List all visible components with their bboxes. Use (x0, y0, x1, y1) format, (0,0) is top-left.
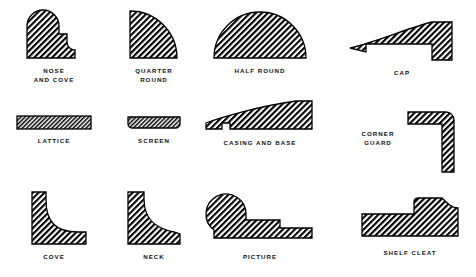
figure-nose-and-cove: NOSE AND COVE (6, 6, 102, 84)
cove-profile-drawing (18, 188, 90, 248)
figure-picture: PICTURE (204, 190, 316, 262)
quarter-round-profile-drawing (123, 6, 185, 62)
neck-label: NECK (143, 253, 165, 262)
nose-and-cove-label: NOSE AND COVE (34, 67, 75, 84)
half-round-profile-drawing (208, 6, 312, 62)
figure-half-round: HALF ROUND (204, 6, 316, 76)
picture-profile-drawing (202, 190, 318, 248)
casing-and-base-profile-drawing (200, 96, 320, 134)
figure-corner-guard: CORNER GUARD (350, 108, 470, 176)
half-round-label: HALF ROUND (235, 67, 286, 76)
figure-quarter-round: QUARTER ROUND (110, 6, 198, 84)
figure-screen: SCREEN (110, 112, 198, 146)
figure-cap: CAP (340, 18, 464, 78)
shelf-cleat-profile-drawing (356, 194, 464, 244)
shelf-cleat-label: SHELF CLEAT (383, 249, 436, 258)
corner-guard-profile-drawing (406, 108, 466, 176)
figure-cove: COVE (6, 188, 102, 262)
picture-label: PICTURE (243, 253, 277, 262)
neck-profile-drawing (118, 188, 190, 248)
lattice-label: LATTICE (38, 137, 71, 146)
figure-neck: NECK (110, 188, 198, 262)
cove-label: COVE (43, 253, 65, 262)
screen-profile-drawing (123, 112, 185, 132)
nose-and-cove-profile-drawing (19, 6, 89, 62)
corner-guard-label: CORNER GUARD (350, 130, 406, 147)
figure-lattice: LATTICE (6, 112, 102, 146)
cap-label: CAP (394, 69, 410, 78)
lattice-profile-drawing (12, 112, 96, 132)
quarter-round-label: QUARTER ROUND (135, 67, 173, 84)
cap-profile-drawing (346, 18, 458, 64)
casing-and-base-label: CASING AND BASE (224, 139, 297, 148)
figure-casing-and-base: CASING AND BASE (198, 96, 322, 148)
screen-label: SCREEN (138, 137, 170, 146)
molding-profiles-sheet: NOSE AND COVE QUARTER ROUND HALF ROUND C… (0, 0, 476, 277)
figure-shelf-cleat: SHELF CLEAT (350, 194, 470, 258)
